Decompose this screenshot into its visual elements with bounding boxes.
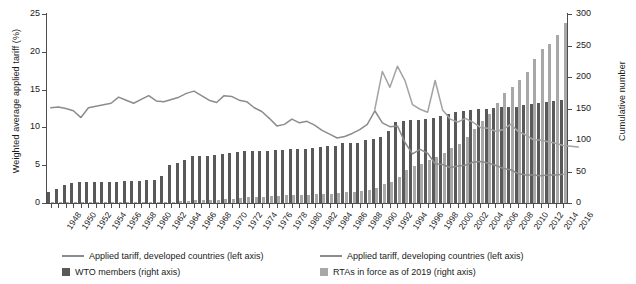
- x-axis-tick-mark: [186, 204, 187, 208]
- x-axis-tick-mark: [164, 204, 165, 208]
- x-axis-tick-mark: [119, 204, 120, 208]
- x-axis-tick-mark: [51, 204, 52, 208]
- y-axis-left-tick-mark: [42, 165, 46, 166]
- x-axis-tick-mark: [58, 204, 59, 208]
- y-axis-left-tick-label: 15: [22, 84, 40, 94]
- x-axis-tick-mark: [375, 204, 376, 208]
- x-axis-tick-mark: [292, 204, 293, 208]
- line-glyph-icon: [320, 255, 342, 257]
- x-axis-tick-mark: [435, 204, 436, 208]
- y-axis-left-tick-mark: [42, 90, 46, 91]
- x-axis-tick-mark: [179, 204, 180, 208]
- x-axis-tick-mark: [126, 204, 127, 208]
- y-axis-right-tick-mark: [568, 14, 572, 15]
- x-axis-tick-mark: [556, 204, 557, 208]
- x-axis-tick-mark: [96, 204, 97, 208]
- x-axis-tick-mark: [428, 204, 429, 208]
- x-axis-tick-label: 1986: [350, 210, 369, 231]
- x-axis-tick-label: 1978: [290, 210, 309, 231]
- line-series-layer: [47, 14, 567, 203]
- x-axis-tick-label: 2002: [471, 210, 490, 231]
- x-axis-tick-mark: [284, 204, 285, 208]
- x-axis-tick-label: 2016: [577, 210, 596, 231]
- x-axis-tick-mark: [510, 204, 511, 208]
- y-axis-right-tick-mark: [568, 109, 572, 110]
- y-axis-left-tick-label: 5: [22, 159, 40, 169]
- x-axis-tick-mark: [111, 204, 112, 208]
- x-axis-tick-mark: [156, 204, 157, 208]
- x-axis-tick-label: 1964: [185, 210, 204, 231]
- x-axis-tick-label: 1962: [170, 210, 189, 231]
- y-axis-left-tick-label: 0: [22, 197, 40, 207]
- x-axis-tick-mark: [397, 204, 398, 208]
- x-axis-tick-mark: [503, 204, 504, 208]
- x-axis-tick-label: 2006: [501, 210, 520, 231]
- x-axis-tick-mark: [134, 204, 135, 208]
- x-axis-tick-label: 2014: [561, 210, 580, 231]
- x-axis-tick-label: 1968: [215, 210, 234, 231]
- line-developing-tariff: [375, 66, 578, 147]
- x-axis-tick-label: 1980: [305, 210, 324, 231]
- x-axis-tick-mark: [141, 204, 142, 208]
- x-axis-tick-mark: [533, 204, 534, 208]
- x-axis-tick-mark: [360, 204, 361, 208]
- x-axis-tick-label: 2004: [486, 210, 505, 231]
- y-axis-left-title: Weighted average applied tariff (%): [11, 26, 21, 176]
- chart-container: Weighted average applied tariff (%) Cumu…: [0, 0, 636, 284]
- x-axis-tick-mark: [480, 204, 481, 208]
- chart-legend: Applied tariff, developed countries (lef…: [62, 248, 622, 280]
- x-axis-tick-mark: [73, 204, 74, 208]
- x-axis-tick-mark: [315, 204, 316, 208]
- x-axis-tick-mark: [458, 204, 459, 208]
- x-axis-tick-label: 2012: [546, 210, 565, 231]
- x-axis-tick-mark: [367, 204, 368, 208]
- x-axis-tick-mark: [352, 204, 353, 208]
- y-axis-right-title: Cumulative number: [617, 26, 627, 176]
- x-axis-tick-mark: [269, 204, 270, 208]
- x-axis-tick-mark: [563, 204, 564, 208]
- x-axis-tick-mark: [254, 204, 255, 208]
- x-axis-tick-mark: [224, 204, 225, 208]
- x-axis-tick-mark: [450, 204, 451, 208]
- y-axis-right-tick-label: 200: [576, 71, 598, 81]
- x-axis-tick-mark: [104, 204, 105, 208]
- y-axis-right-tick-label: 250: [576, 40, 598, 50]
- y-axis-right-tick-label: 300: [576, 8, 598, 18]
- y-axis-right-tick-label: 150: [576, 103, 598, 113]
- x-axis-tick-mark: [382, 204, 383, 208]
- x-axis-tick-mark: [345, 204, 346, 208]
- x-axis-tick-mark: [405, 204, 406, 208]
- y-axis-left-tick-label: 20: [22, 46, 40, 56]
- x-axis-tick-label: 1958: [139, 210, 158, 231]
- legend-label: Applied tariff, developed countries (lef…: [89, 251, 263, 261]
- x-axis-tick-label: 2000: [456, 210, 475, 231]
- x-axis-tick-label: 1982: [320, 210, 339, 231]
- square-swatch-icon: [62, 268, 70, 276]
- legend-label: WTO members (right axis): [75, 267, 180, 277]
- x-axis-tick-mark: [526, 204, 527, 208]
- y-axis-left-tick-mark: [42, 203, 46, 204]
- x-axis-tick-label: 2008: [516, 210, 535, 231]
- legend-item-developing-tariff: Applied tariff, developing countries (le…: [320, 251, 523, 261]
- x-axis-ticks: 1948195019521954195619581960196219641966…: [47, 204, 567, 210]
- x-axis-tick-label: 1994: [411, 210, 430, 231]
- x-axis-tick-mark: [277, 204, 278, 208]
- x-axis-tick-mark: [541, 204, 542, 208]
- x-axis-tick-mark: [201, 204, 202, 208]
- x-axis-tick-mark: [149, 204, 150, 208]
- x-axis-tick-label: 1952: [94, 210, 113, 231]
- x-axis-tick-label: 1948: [64, 210, 83, 231]
- x-axis-tick-mark: [239, 204, 240, 208]
- x-axis-tick-mark: [262, 204, 263, 208]
- x-axis-tick-mark: [88, 204, 89, 208]
- x-axis-tick-label: 1988: [366, 210, 385, 231]
- y-axis-left-tick-mark: [42, 14, 46, 15]
- x-axis-tick-mark: [209, 204, 210, 208]
- x-axis-tick-mark: [299, 204, 300, 208]
- x-axis-tick-label: 1966: [200, 210, 219, 231]
- x-axis-tick-mark: [465, 204, 466, 208]
- x-axis-tick-mark: [413, 204, 414, 208]
- x-axis-tick-label: 1998: [441, 210, 460, 231]
- x-axis-tick-mark: [390, 204, 391, 208]
- x-axis-tick-mark: [518, 204, 519, 208]
